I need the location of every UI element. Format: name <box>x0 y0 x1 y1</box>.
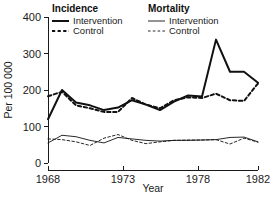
x-tick-label: 1968 <box>36 173 60 185</box>
chart-figure: 0100200300400 1968197319781982 Per 100 0… <box>0 0 275 198</box>
legend-label-incidence-control: Control <box>73 25 104 36</box>
y-tick-label: 200 <box>23 84 41 96</box>
series-mortality-control <box>48 135 258 146</box>
y-tick-label: 100 <box>23 121 41 133</box>
y-axis: 0100200300400 <box>23 11 48 169</box>
line-chart: 0100200300400 1968197319781982 Per 100 0… <box>0 0 275 198</box>
chart-legend: IncidenceInterventionControlMortalityInt… <box>52 3 219 36</box>
legend-heading-incidence: Incidence <box>52 3 99 14</box>
y-tick-label: 0 <box>35 157 41 169</box>
x-axis-title: Year <box>142 182 164 194</box>
y-tick-label-group: 0100200300400 <box>23 11 41 169</box>
y-tick-label: 300 <box>23 48 41 60</box>
x-tick-label: 1973 <box>111 173 135 185</box>
x-tick-label: 1982 <box>246 173 270 185</box>
legend-label-mortality-control: Control <box>169 25 200 36</box>
x-axis-line <box>48 166 258 170</box>
y-axis-title: Per 100 000 <box>2 61 14 118</box>
y-axis-line <box>44 17 48 163</box>
y-tick-label: 400 <box>23 11 41 23</box>
legend-heading-mortality: Mortality <box>148 3 190 14</box>
data-series-group <box>48 40 258 146</box>
x-tick-label: 1978 <box>186 173 210 185</box>
series-mortality-intervention <box>48 135 258 143</box>
